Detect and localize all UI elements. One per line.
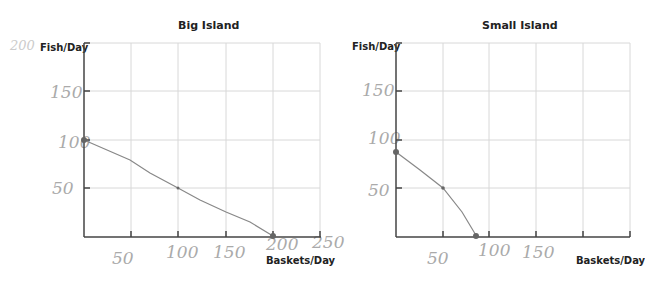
small-grid [396, 43, 630, 237]
big-grid [84, 43, 320, 237]
small-ppf-line [396, 152, 477, 237]
